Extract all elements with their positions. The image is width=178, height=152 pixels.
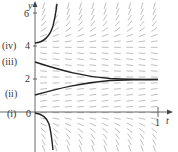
- slope-mark: [127, 129, 132, 133]
- slope-mark: [90, 123, 95, 126]
- slope-mark: [127, 118, 133, 119]
- slope-mark: [139, 123, 144, 126]
- slope-mark: [66, 28, 71, 31]
- slope-mark: [91, 21, 95, 26]
- t-axis-label: t: [166, 115, 169, 126]
- slope-mark: [139, 65, 145, 66]
- slope-mark: [65, 100, 71, 101]
- y-axis-arrow-icon: [33, 1, 38, 7]
- slope-mark: [55, 145, 57, 151]
- slope-mark: [79, 145, 81, 151]
- slope-mark: [114, 53, 120, 54]
- slope-mark: [66, 21, 70, 26]
- curve-label-i: (i): [7, 108, 16, 120]
- slope-mark: [78, 123, 83, 126]
- slope-mark: [102, 53, 108, 54]
- slope-mark: [139, 106, 145, 107]
- slope-mark: [102, 41, 108, 42]
- slope-mark: [139, 34, 145, 36]
- slope-mark: [53, 53, 59, 54]
- slope-mark: [65, 59, 71, 60]
- slope-mark: [141, 9, 143, 15]
- slope-mark: [42, 15, 45, 20]
- solution-curve-ii: [35, 80, 158, 96]
- slope-mark: [114, 71, 120, 72]
- slope-mark: [90, 65, 96, 66]
- slope-mark: [128, 21, 132, 26]
- slope-mark: [127, 123, 132, 126]
- slope-mark: [152, 21, 156, 26]
- slope-mark: [41, 123, 46, 126]
- slope-mark: [152, 28, 157, 31]
- slope-mark: [116, 15, 119, 20]
- slope-mark: [139, 94, 145, 95]
- y-tick-label-6: 6: [24, 8, 29, 19]
- slope-mark: [102, 123, 107, 126]
- slope-mark: [114, 41, 120, 42]
- slope-mark: [103, 134, 107, 139]
- slope-mark: [79, 140, 82, 145]
- slope-mark: [102, 100, 108, 101]
- slope-mark: [65, 34, 71, 36]
- slope-mark: [41, 94, 47, 95]
- slope-mark: [153, 140, 156, 145]
- slope-mark: [127, 65, 133, 66]
- slope-mark: [127, 34, 133, 36]
- slope-mark: [41, 100, 47, 101]
- slope-mark: [79, 134, 83, 139]
- slope-mark: [90, 28, 95, 31]
- curve-label-iv: (iv): [2, 40, 16, 52]
- slope-mark: [129, 9, 131, 15]
- slope-mark: [67, 3, 69, 9]
- slope-mark: [115, 129, 120, 133]
- slope-mark: [41, 53, 47, 54]
- slope-mark: [104, 15, 107, 20]
- slope-mark: [116, 134, 120, 139]
- slope-mark: [139, 41, 145, 42]
- slope-mark: [140, 21, 144, 26]
- slope-mark: [66, 129, 71, 133]
- slope-mark: [65, 65, 71, 66]
- slope-mark: [104, 145, 106, 151]
- slope-mark: [91, 134, 95, 139]
- slope-mark: [127, 94, 133, 95]
- slope-mark: [114, 100, 120, 101]
- slope-mark: [43, 145, 45, 151]
- slope-mark: [127, 106, 133, 107]
- slope-mark: [140, 28, 145, 31]
- slope-mark: [151, 100, 157, 101]
- slope-mark: [139, 100, 145, 101]
- slope-mark: [153, 134, 157, 139]
- slope-mark: [92, 145, 94, 151]
- slope-mark: [116, 9, 118, 15]
- slope-mark: [53, 59, 59, 60]
- slope-mark: [41, 59, 47, 60]
- slope-mark: [90, 106, 96, 107]
- y-tick-label-2: 2: [25, 73, 30, 84]
- slope-mark: [41, 89, 47, 90]
- slope-mark: [115, 21, 119, 26]
- slope-mark: [53, 100, 59, 101]
- slope-mark: [103, 21, 107, 26]
- slope-mark: [41, 71, 47, 72]
- slope-mark: [41, 28, 46, 31]
- slope-mark: [102, 59, 108, 60]
- slope-mark: [127, 53, 133, 54]
- slope-mark: [141, 140, 144, 145]
- slope-mark: [117, 3, 119, 9]
- slope-mark: [114, 106, 120, 107]
- slope-mark: [151, 59, 157, 60]
- slope-mark: [128, 15, 131, 20]
- slope-mark: [114, 59, 120, 60]
- slope-mark: [43, 3, 45, 9]
- curve-label-ii: (ii): [5, 88, 17, 100]
- slope-mark: [90, 34, 96, 36]
- slope-mark: [78, 59, 84, 60]
- slope-mark: [78, 100, 84, 101]
- slope-mark: [54, 129, 59, 133]
- slope-mark: [102, 34, 108, 36]
- t-tick-label-1: 1: [155, 117, 160, 128]
- slope-mark: [90, 100, 96, 101]
- slope-mark: [103, 28, 108, 31]
- slope-mark: [53, 94, 59, 95]
